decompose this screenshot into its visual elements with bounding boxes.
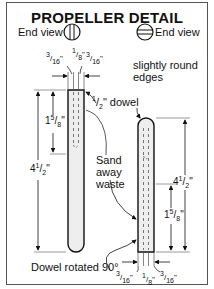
right-dim-long: 41/2" xyxy=(173,177,193,187)
end-view-left-icon xyxy=(64,24,80,40)
end-view-left-label: End view xyxy=(18,27,63,38)
left-dowel xyxy=(52,66,100,252)
sand-label-2: away xyxy=(96,167,122,178)
left-dim-long: 41/2" xyxy=(30,164,50,174)
left-dim-short: 15/8" xyxy=(45,116,65,126)
right-bottom-dim-left: 3/16" xyxy=(116,274,133,282)
sand-label-1: Sand xyxy=(96,155,122,166)
right-bottom-dim-right: 3/16" xyxy=(160,274,177,282)
right-dim-short: 15/8" xyxy=(164,210,184,220)
diagram-drawing xyxy=(0,0,214,289)
left-top-dim-right: 3/16" xyxy=(86,55,103,63)
dowel-size-label: 1/2" dowel xyxy=(92,97,139,108)
end-view-right-label: End view xyxy=(155,27,200,38)
right-bottom-dim-center: 1/8" xyxy=(142,276,155,284)
left-top-dim-left: 3/16" xyxy=(46,55,63,63)
left-top-dim-center: 1/8" xyxy=(72,51,85,59)
round-edges-label-1: slightly round xyxy=(133,60,198,71)
diagram-title: PROPELLER DETAIL xyxy=(0,10,214,25)
end-view-right-icon xyxy=(137,24,153,40)
right-dowel xyxy=(122,118,170,272)
sand-label-3: waste xyxy=(96,179,125,190)
rotated-label: Dowel rotated 90° xyxy=(31,262,119,273)
round-edges-label-2: edges xyxy=(133,72,163,83)
